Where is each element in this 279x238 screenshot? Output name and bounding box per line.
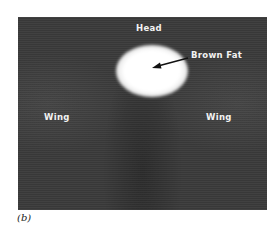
brown-fat-hotspot — [116, 45, 188, 97]
figure-caption: (b) — [17, 212, 31, 223]
head-label: Head — [136, 23, 162, 33]
figure: Head Brown Fat Wing Wing (b) — [0, 0, 279, 238]
brown-fat-label: Brown Fat — [191, 50, 242, 60]
wing-left-label: Wing — [44, 112, 70, 122]
thermogram-image: Head Brown Fat Wing Wing — [18, 17, 267, 210]
wing-right-label: Wing — [206, 112, 232, 122]
